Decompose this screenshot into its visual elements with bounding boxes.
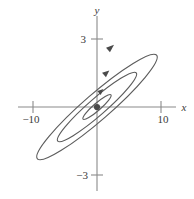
direction-arrow-middle [102,68,111,77]
phase-portrait-svg: y x 3 −3 −10 10 [0,0,194,199]
x-tick-label-10: 10 [158,113,170,125]
direction-arrow-outer [106,42,116,52]
x-tick-label-minus10: −10 [22,113,40,125]
equilibrium-point-dot [94,104,100,110]
axes-group [18,16,176,191]
y-tick-label-minus3: −3 [76,169,88,181]
y-tick-label-3: 3 [81,33,87,45]
phase-portrait-figure: y x 3 −3 −10 10 [0,0,194,199]
y-axis-label: y [94,4,100,16]
x-axis-label: x [181,101,187,113]
